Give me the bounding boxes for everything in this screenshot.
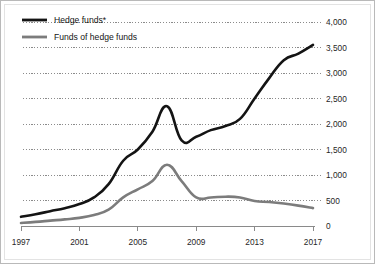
- line-chart: 05001,0001,5002,0002,5003,0003,5004,000 …: [1, 1, 375, 264]
- chart-legend: Hedge funds*Funds of hedge funds: [22, 15, 137, 42]
- data-series-group: [21, 45, 313, 223]
- x-axis-tick-label: 2017: [304, 237, 323, 247]
- y-axis-tick-label: 0: [326, 221, 331, 231]
- x-axis-tick-label: 2009: [187, 237, 206, 247]
- x-axis-tick-labels: 199720012005200920132017: [12, 237, 323, 247]
- y-axis-tick-label: 1,000: [326, 170, 347, 180]
- series-line-hedge-funds: [21, 45, 313, 217]
- legend-label-1: Hedge funds*: [54, 15, 107, 25]
- x-axis-tick-label: 2005: [129, 237, 148, 247]
- y-axis-tick-label: 500: [326, 196, 340, 206]
- y-axis-tick-label: 2,500: [326, 94, 347, 104]
- y-axis-tick-label: 2,000: [326, 119, 347, 129]
- y-axis-tick-label: 1,500: [326, 145, 347, 155]
- y-axis-tick-label: 3,500: [326, 43, 347, 53]
- chart-container: 05001,0001,5002,0002,5003,0003,5004,000 …: [0, 0, 375, 264]
- x-axis-tick-label: 2013: [245, 237, 264, 247]
- x-axis-tick-label: 2001: [70, 237, 89, 247]
- x-axis: [21, 226, 315, 231]
- y-axis-tick-labels: 05001,0001,5002,0002,5003,0003,5004,000: [326, 17, 347, 231]
- y-axis-tick-label: 4,000: [326, 17, 347, 27]
- series-line-funds-of-hedge-funds: [21, 165, 313, 223]
- x-axis-tick-label: 1997: [12, 237, 31, 247]
- y-axis-tick-label: 3,000: [326, 68, 347, 78]
- legend-label-2: Funds of hedge funds: [54, 32, 137, 42]
